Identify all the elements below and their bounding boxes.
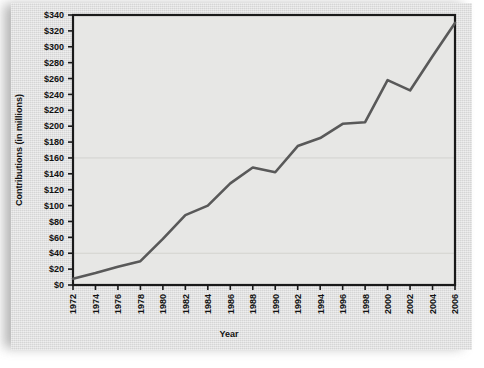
y-axis-ticks: $0$20$40$60$80$100$120$140$160$180$200$2… xyxy=(44,10,73,290)
x-tick-label: 1984 xyxy=(203,294,213,314)
y-tick-label: $300 xyxy=(44,42,64,52)
x-tick-label: 1974 xyxy=(91,294,101,314)
y-tick-label: $140 xyxy=(44,169,64,179)
x-tick-label: 1988 xyxy=(248,294,258,314)
y-tick-label: $200 xyxy=(44,121,64,131)
x-axis-title: Year xyxy=(219,329,239,339)
x-tick-label: 1980 xyxy=(158,294,168,314)
x-tick-label: 1996 xyxy=(338,294,348,314)
x-axis-ticks: 1972197419761978198019821984198619881990… xyxy=(68,285,460,314)
x-tick-label: 1992 xyxy=(293,294,303,314)
y-tick-label: $260 xyxy=(44,74,64,84)
y-tick-label: $20 xyxy=(49,264,64,274)
y-tick-label: $220 xyxy=(44,105,64,115)
x-tick-label: 1978 xyxy=(136,294,146,314)
x-tick-label: 1990 xyxy=(271,294,281,314)
y-tick-label: $120 xyxy=(44,185,64,195)
y-tick-label: $180 xyxy=(44,137,64,147)
y-tick-label: $100 xyxy=(44,201,64,211)
y-tick-label: $0 xyxy=(54,280,64,290)
y-tick-label: $40 xyxy=(49,248,64,258)
x-tick-label: 1998 xyxy=(361,294,371,314)
x-tick-label: 2004 xyxy=(428,294,438,314)
chart-figure: $0$20$40$60$80$100$120$140$160$180$200$2… xyxy=(0,0,484,368)
x-tick-label: 1982 xyxy=(181,294,191,314)
line-chart: $0$20$40$60$80$100$120$140$160$180$200$2… xyxy=(0,0,473,365)
x-tick-label: 1986 xyxy=(226,294,236,314)
x-tick-label: 2002 xyxy=(405,294,415,314)
y-tick-label: $280 xyxy=(44,58,64,68)
x-tick-label: 1976 xyxy=(113,294,123,314)
plot-area-background xyxy=(73,15,455,285)
y-tick-label: $60 xyxy=(49,233,64,243)
x-tick-label: 1994 xyxy=(316,294,326,314)
y-tick-label: $160 xyxy=(44,153,64,163)
x-tick-label: 2000 xyxy=(383,294,393,314)
y-tick-label: $340 xyxy=(44,10,64,20)
x-tick-label: 1972 xyxy=(68,294,78,314)
y-tick-label: $320 xyxy=(44,26,64,36)
x-tick-label: 2006 xyxy=(450,294,460,314)
y-tick-label: $240 xyxy=(44,90,64,100)
y-tick-label: $80 xyxy=(49,217,64,227)
y-axis-title: Contributions (in millions) xyxy=(14,94,24,206)
